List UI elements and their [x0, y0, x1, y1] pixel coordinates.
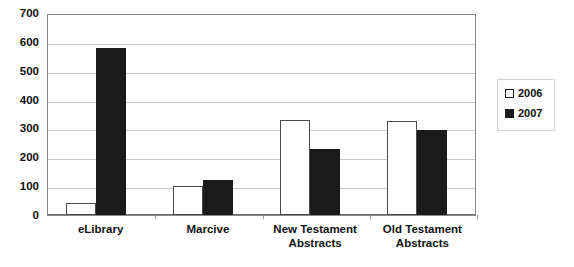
y-tick-label: 300 — [20, 123, 39, 134]
bar-new-testament-abstracts-2007 — [310, 149, 340, 215]
hollow-square-icon — [505, 89, 514, 98]
bars-layer — [48, 15, 475, 215]
x-axis-label-old-testament-abstracts: Old Testament Abstracts — [369, 222, 476, 250]
legend-label: 2006 — [518, 88, 542, 99]
x-axis-tick — [263, 215, 264, 219]
legend-label: 2007 — [518, 108, 542, 119]
x-axis-label-new-testament-abstracts: New Testament Abstracts — [262, 222, 369, 250]
filled-square-icon — [505, 109, 514, 118]
x-axis-label-marcive: Marcive — [154, 222, 261, 236]
y-axis: 700 600 500 400 300 200 100 0 — [0, 0, 44, 267]
legend-item-2006: 2006 — [505, 88, 542, 99]
bar-old-testament-abstracts-2007 — [417, 130, 447, 215]
x-axis-tick — [370, 215, 371, 219]
x-axis-tick — [155, 215, 156, 219]
bar-marcive-2007 — [203, 180, 233, 215]
y-tick-label: 0 — [33, 210, 39, 221]
legend: 2006 2007 — [497, 79, 555, 131]
y-tick-label: 600 — [20, 37, 39, 48]
bar-elibrary-2007 — [96, 48, 126, 215]
x-axis-label-elibrary: eLibrary — [47, 222, 154, 236]
x-axis-tick — [477, 215, 478, 219]
bar-marcive-2006 — [173, 186, 203, 215]
bar-new-testament-abstracts-2006 — [280, 120, 310, 215]
y-tick-label: 700 — [20, 8, 39, 19]
y-tick-label: 200 — [20, 152, 39, 163]
bar-old-testament-abstracts-2006 — [387, 121, 417, 215]
y-tick-label: 500 — [20, 66, 39, 77]
bar-elibrary-2006 — [66, 203, 96, 215]
y-tick-label: 100 — [20, 181, 39, 192]
legend-item-2007: 2007 — [505, 108, 542, 119]
bar-chart: 700 600 500 400 300 200 100 0 eLibraryMa… — [0, 0, 574, 267]
x-axis: eLibraryMarciveNew Testament AbstractsOl… — [47, 222, 476, 264]
plot-area — [47, 14, 476, 216]
y-tick-label: 400 — [20, 95, 39, 106]
